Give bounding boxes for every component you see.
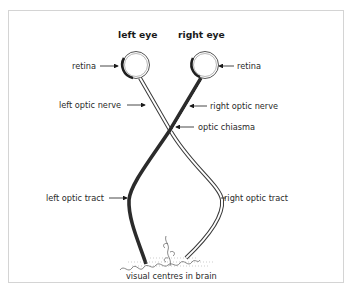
left-eye [122,52,149,79]
optic-chiasma-text: optic chiasma [198,122,255,132]
right-eye-title: right eye [178,29,225,40]
right-eye [191,52,218,79]
label-left-optic-nerve: left optic nerve [59,100,145,110]
left-optic-tract-text: left optic tract [46,193,105,203]
left-optic-nerve-text: left optic nerve [59,100,121,110]
label-retina-left: retina [72,61,118,71]
label-left-optic-tract: left optic tract [46,193,127,203]
optic-pathway-diagram: left eye right eye retina [0,0,352,295]
retina-right-text: retina [237,61,261,71]
label-right-optic-tract: right optic tract [221,193,289,203]
right-optic-tract-text: right optic tract [224,193,289,203]
label-right-optic-nerve: right optic nerve [190,101,278,111]
left-eye-title: left eye [118,29,157,40]
label-retina-right: retina [219,61,261,71]
retina-left-text: retina [72,61,96,71]
right-optic-nerve-text: right optic nerve [210,101,278,111]
visual-centres-label: visual centres in brain [126,271,217,281]
label-optic-chiasma: optic chiasma [176,122,255,132]
